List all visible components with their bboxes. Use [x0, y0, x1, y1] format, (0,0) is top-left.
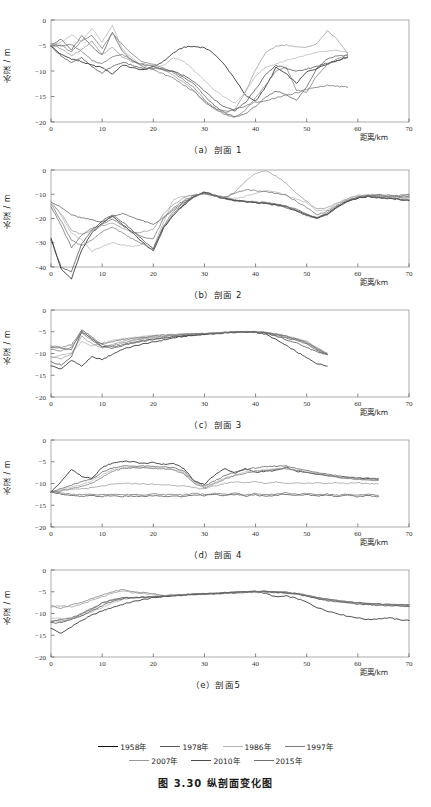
legend-item[interactable]: 1997年 — [285, 741, 333, 752]
legend-label: 1986年 — [245, 741, 271, 752]
svg-text:0: 0 — [49, 530, 53, 538]
chart-svg-a: 0−5−10−15−20010203040506070 — [0, 14, 431, 144]
legend-item[interactable]: 1986年 — [223, 741, 271, 752]
x-axis-label-d: 距离/km — [360, 536, 388, 547]
svg-text:70: 70 — [406, 125, 414, 133]
series-line-1997年 — [51, 331, 327, 354]
svg-text:20: 20 — [150, 530, 158, 538]
y-axis-label-c: 水深 / m — [2, 330, 13, 365]
legend-row: 2007年2010年2015年 — [0, 755, 431, 766]
series-line-2007年 — [51, 31, 348, 113]
y-axis-label-d: 水深 / m — [2, 460, 13, 495]
plot-area-a: 水深 / m 0−5−10−15−20010203040506070 距离/km — [0, 14, 431, 144]
chart-svg-c: 0−5−10−15−20010203040506070 — [0, 304, 431, 419]
subcaption-a: （a）剖面 1 — [0, 143, 431, 155]
series-line-1958年 — [51, 46, 348, 101]
series-line-2010年 — [51, 46, 348, 111]
series-line-2010年 — [51, 591, 409, 623]
figure-container: 水深 / m 0−5−10−15−20010203040506070 距离/km… — [0, 0, 431, 807]
subcaption-d: （d）剖面 4 — [0, 548, 431, 560]
legend-label: 2007年 — [151, 755, 177, 766]
svg-text:70: 70 — [406, 270, 414, 278]
svg-text:20: 20 — [150, 400, 158, 408]
series-line-1978年 — [51, 32, 348, 116]
svg-text:−10: −10 — [35, 191, 46, 199]
svg-text:0: 0 — [49, 270, 53, 278]
legend-row: 1958年1978年1986年1997年 — [0, 741, 431, 752]
svg-text:−20: −20 — [35, 394, 46, 402]
legend-line-swatch — [285, 746, 305, 747]
svg-text:40: 40 — [252, 660, 260, 668]
series-line-1958年 — [51, 592, 409, 634]
svg-text:−5: −5 — [39, 588, 47, 596]
svg-text:−15: −15 — [35, 372, 46, 380]
series-line-1978年 — [51, 193, 409, 225]
x-axis-label-c: 距离/km — [360, 406, 388, 417]
svg-text:−15: −15 — [35, 632, 46, 640]
figure-caption: 图 3.30 纵剖面变化图 — [0, 775, 431, 790]
svg-text:30: 30 — [201, 660, 209, 668]
legend-item[interactable]: 2015年 — [254, 755, 302, 766]
legend-label: 1958年 — [120, 741, 146, 752]
svg-text:10: 10 — [99, 660, 107, 668]
series-line-2010年 — [51, 193, 409, 272]
legend-line-swatch — [129, 760, 149, 761]
legend-label: 2010年 — [213, 755, 239, 766]
svg-text:−5: −5 — [39, 328, 47, 336]
svg-text:−10: −10 — [35, 480, 46, 488]
chart-panel-c: 水深 / m 0−5−10−15−20010203040506070 距离/km… — [0, 304, 431, 430]
series-line-2015年 — [51, 492, 378, 496]
legend-line-swatch — [223, 746, 243, 747]
legend-item[interactable]: 2007年 — [129, 755, 177, 766]
svg-text:−10: −10 — [35, 350, 46, 358]
y-axis-label-e: 水深 / m — [2, 590, 13, 625]
svg-text:70: 70 — [406, 530, 414, 538]
svg-text:0: 0 — [43, 437, 47, 445]
plot-area-b: 水深 / m 0−10−20−30−40010203040506070 距离/k… — [0, 164, 431, 289]
svg-text:−20: −20 — [35, 215, 46, 223]
legend-item[interactable]: 1978年 — [160, 741, 208, 752]
svg-text:0: 0 — [43, 167, 47, 175]
svg-text:30: 30 — [201, 530, 209, 538]
svg-text:0: 0 — [49, 660, 53, 668]
svg-text:70: 70 — [406, 400, 414, 408]
plot-area-d: 水深 / m 0−5−10−15−20010203040506070 距离/km — [0, 434, 431, 549]
svg-text:30: 30 — [201, 125, 209, 133]
svg-text:50: 50 — [303, 400, 311, 408]
svg-text:50: 50 — [303, 660, 311, 668]
series-line-2015年 — [51, 331, 327, 354]
svg-text:70: 70 — [406, 660, 414, 668]
series-line-2015年 — [51, 44, 348, 111]
subcaption-b: （b）剖面 2 — [0, 288, 431, 300]
legend-item[interactable]: 1958年 — [98, 741, 146, 752]
subcaption-c: （c）剖面 3 — [0, 418, 431, 430]
svg-text:50: 50 — [303, 125, 311, 133]
svg-text:20: 20 — [150, 660, 158, 668]
svg-text:40: 40 — [252, 125, 260, 133]
svg-text:40: 40 — [252, 270, 260, 278]
series-line-1978年 — [51, 591, 409, 622]
series-line-2007年 — [51, 171, 409, 235]
svg-text:−30: −30 — [35, 239, 46, 247]
svg-text:−20: −20 — [35, 119, 46, 127]
series-line-1986年 — [51, 592, 409, 619]
svg-text:50: 50 — [303, 270, 311, 278]
svg-text:−10: −10 — [35, 610, 46, 618]
svg-text:−40: −40 — [35, 264, 46, 272]
legend-item[interactable]: 2010年 — [191, 755, 239, 766]
svg-text:−20: −20 — [35, 654, 46, 662]
legend-label: 2015年 — [276, 755, 302, 766]
svg-text:−5: −5 — [39, 42, 47, 50]
svg-text:10: 10 — [99, 530, 107, 538]
svg-text:−15: −15 — [35, 502, 46, 510]
x-axis-label-e: 距离/km — [360, 666, 388, 677]
chart-panel-d: 水深 / m 0−5−10−15−20010203040506070 距离/km… — [0, 434, 431, 560]
x-axis-label-b: 距离/km — [360, 276, 388, 287]
svg-text:30: 30 — [201, 400, 209, 408]
legend-line-swatch — [254, 760, 274, 761]
series-line-2010年 — [51, 331, 327, 365]
legend-line-swatch — [98, 746, 118, 747]
svg-text:10: 10 — [99, 125, 107, 133]
svg-text:−20: −20 — [35, 524, 46, 532]
svg-text:0: 0 — [43, 567, 47, 575]
